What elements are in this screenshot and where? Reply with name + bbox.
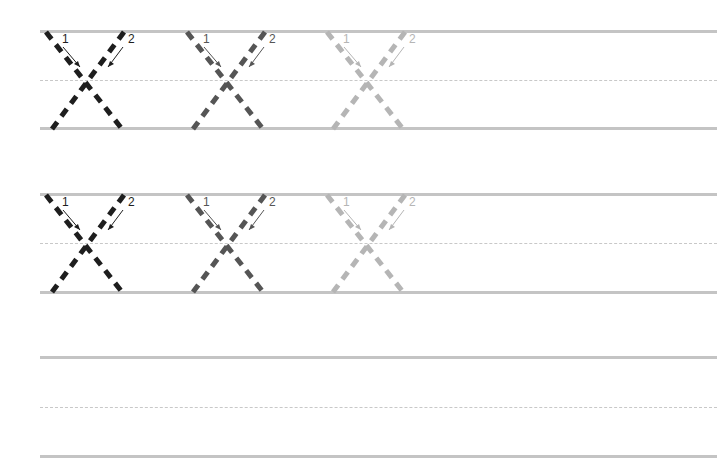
handwriting-worksheet: 1 2 1 2 1: [0, 0, 717, 464]
stroke-number-2: 2: [409, 195, 416, 209]
stroke-number-2: 2: [269, 195, 276, 209]
letter-x-strokes-icon: 1 2: [325, 193, 425, 303]
stroke-number-2: 2: [409, 32, 416, 46]
stroke-number-1: 1: [203, 195, 210, 209]
letter-x-strokes-icon: 1 2: [44, 193, 144, 303]
tracing-letter-x-light: 1 2: [325, 193, 425, 303]
stroke-number-1: 1: [62, 32, 69, 46]
midline-dashed: [40, 407, 717, 408]
stroke-number-1: 1: [343, 32, 350, 46]
letter-x-strokes-icon: 1 2: [44, 30, 144, 140]
stroke-number-2: 2: [128, 32, 135, 46]
top-guide-line: [40, 356, 717, 359]
letter-x-strokes-icon: 1 2: [325, 30, 425, 140]
stroke-number-1: 1: [62, 195, 69, 209]
tracing-letter-x-dark: 1 2: [44, 193, 144, 303]
tracing-letter-x-light: 1 2: [325, 30, 425, 140]
letter-x-strokes-icon: 1 2: [185, 193, 285, 303]
baseline: [40, 455, 717, 458]
tracing-letter-x-dark: 1 2: [44, 30, 144, 140]
stroke-number-2: 2: [128, 195, 135, 209]
stroke-number-1: 1: [343, 195, 350, 209]
tracing-letter-x-medium: 1 2: [185, 30, 285, 140]
letter-x-strokes-icon: 1 2: [185, 30, 285, 140]
stroke-number-1: 1: [203, 32, 210, 46]
stroke-number-2: 2: [269, 32, 276, 46]
tracing-letter-x-medium: 1 2: [185, 193, 285, 303]
